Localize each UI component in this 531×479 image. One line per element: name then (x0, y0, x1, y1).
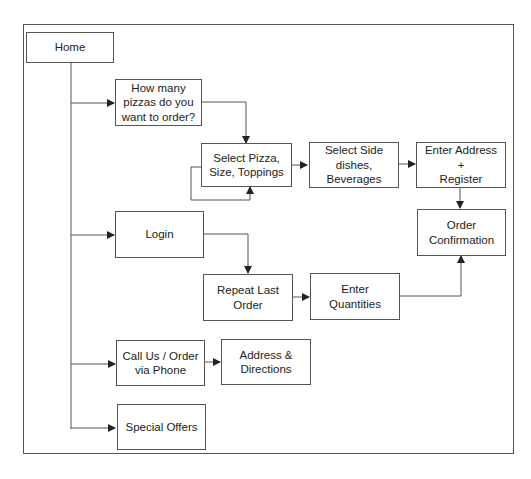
node-login: Login (115, 211, 204, 258)
node-select-pizza: Select Pizza, Size, Toppings (201, 143, 292, 187)
edge-how-many-select-pizza (201, 102, 246, 143)
node-repeat-last-order: Repeat Last Order (203, 274, 293, 321)
node-how-many-pizzas: How many pizzas do you want to order? (115, 79, 202, 126)
node-order-confirmation: Order Confirmation (417, 209, 506, 256)
edge-login-repeat (203, 234, 248, 273)
node-call-us: Call Us / Order via Phone (116, 340, 205, 386)
edge-quantities-confirmation (399, 256, 461, 296)
node-special-offers: Special Offers (117, 404, 206, 450)
node-home: Home (26, 32, 114, 63)
node-enter-quantities: Enter Quantities (310, 273, 400, 320)
node-enter-address-register: Enter Address + Register (416, 142, 506, 188)
node-address-directions: Address & Directions (221, 339, 311, 385)
node-select-side-dishes: Select Side dishes, Beverages (309, 142, 399, 188)
